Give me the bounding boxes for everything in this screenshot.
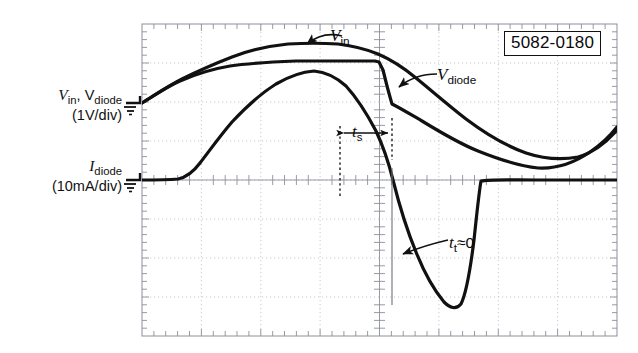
part-number-text: 5082-0180	[511, 33, 594, 52]
voltage-axis-label-line1: Vin, Vdiode	[58, 87, 122, 103]
current-axis-label: Idiode (10mA/div)	[18, 157, 122, 194]
current-axis-label-line2: (10mA/div)	[52, 178, 122, 194]
voltage-axis-label-line2: (1V/div)	[72, 107, 122, 123]
current-axis-label-line1: Idiode	[89, 158, 122, 174]
voltage-ground-icon	[124, 96, 140, 115]
voltage-axis-label: Vin, Vdiode (1V/div)	[18, 86, 122, 123]
oscilloscope-figure: Vin, Vdiode (1V/div) Idiode (10mA/div) V…	[0, 0, 638, 353]
vdiode-curve-label: Vdiode	[437, 65, 476, 86]
current-ground-icon	[124, 173, 140, 192]
vin-curve-label: Vin	[330, 26, 350, 47]
ts-annotation-label: ts	[352, 122, 362, 143]
tt-annotation-label: tt≈0	[449, 233, 474, 254]
part-number-badge: 5082-0180	[504, 31, 601, 56]
